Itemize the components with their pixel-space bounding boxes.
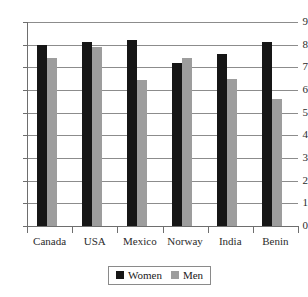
bar-usa-men — [92, 47, 102, 226]
bar-norway-women — [172, 63, 182, 226]
bar-canada-men — [47, 58, 57, 226]
x-axis-label-benin: Benin — [248, 235, 303, 248]
x-axis-tick — [163, 227, 164, 233]
bar-mexico-women — [127, 40, 137, 226]
bar-norway-men — [182, 58, 192, 226]
bar-india-women — [217, 54, 227, 226]
x-axis-tick — [117, 227, 118, 233]
bar-mexico-men — [137, 80, 147, 226]
legend-label: Men — [183, 269, 203, 281]
bar-usa-women — [82, 42, 92, 226]
bar-chart-figure: 0123456789 CanadaUSAMexicoNorwayIndiaBen… — [0, 0, 308, 297]
x-axis-tick — [27, 227, 28, 233]
x-axis-tick — [72, 227, 73, 233]
bar-india-men — [227, 79, 237, 226]
bar-canada-women — [37, 45, 47, 226]
x-axis-tick — [298, 227, 299, 233]
chart-legend: WomenMen — [108, 266, 211, 285]
legend-entry-women[interactable]: Women — [116, 269, 162, 281]
legend-entry-men[interactable]: Men — [171, 269, 203, 281]
bar-series-group — [27, 22, 298, 226]
square-black-icon — [116, 271, 124, 279]
x-axis-tick — [253, 227, 254, 233]
bar-benin-women — [262, 42, 272, 226]
square-gray-icon — [171, 271, 179, 279]
x-axis-tick — [208, 227, 209, 233]
bar-benin-men — [272, 99, 282, 226]
legend-label: Women — [128, 269, 162, 281]
